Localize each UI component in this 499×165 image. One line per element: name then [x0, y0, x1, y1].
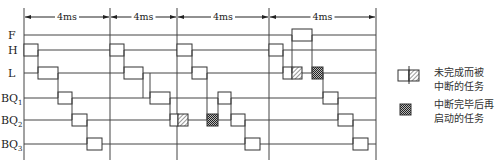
interval-label: 4ms	[213, 11, 233, 22]
task-box-bq1-normal	[150, 92, 170, 104]
task-box-bq3-normal	[353, 138, 368, 150]
row-label-h: H	[8, 44, 18, 57]
task-box-bq2-normal	[231, 114, 245, 126]
legend-swatch-hatch-icon	[409, 70, 419, 81]
task-box-bq3-normal	[245, 138, 260, 150]
task-box-bq2-resumed	[207, 114, 218, 126]
task-box-f-normal	[292, 29, 312, 41]
task-box-bq3-normal	[87, 138, 102, 150]
interval-arrows: 4ms4ms4ms4ms	[25, 11, 375, 22]
task-box-h-normal	[177, 44, 192, 56]
interval-label: 4ms	[313, 11, 333, 22]
task-box-h-normal	[24, 44, 38, 56]
task-box-bq2-normal	[338, 114, 353, 126]
interval-label: 4ms	[57, 11, 77, 22]
legend-text-interrupted: 未完成而被 中断的任务	[434, 66, 499, 94]
task-box-bq1-normal	[58, 92, 72, 104]
task-box-bq2-normal	[170, 114, 178, 126]
task-box-l-normal	[38, 67, 58, 79]
legend-swatch-white	[398, 70, 409, 81]
task-box-bq1-normal	[218, 92, 231, 104]
task-box-l-normal	[192, 67, 207, 79]
task-box-l-interrupted	[292, 67, 302, 79]
task-box-bq2-interrupted	[178, 114, 188, 126]
row-label-f: F	[8, 29, 16, 42]
task-box-bq1-normal	[323, 92, 338, 104]
task-box-l-normal	[283, 67, 292, 79]
interval-label: 4ms	[134, 11, 154, 22]
row-label-bq1: BQ1	[1, 92, 23, 107]
task-box-l-resumed	[312, 67, 323, 79]
legend-swatches	[398, 66, 419, 115]
task-boxes	[24, 29, 368, 150]
legend-text-resumed: 中断完毕后再 启动的任务	[434, 98, 499, 126]
row-label-bq3: BQ3	[1, 138, 23, 153]
row-label-l: L	[8, 67, 16, 80]
task-box-bq2-normal	[72, 114, 87, 126]
task-box-h-normal	[110, 44, 124, 56]
task-box-l-normal	[124, 67, 143, 79]
row-label-bq2: BQ2	[1, 114, 23, 129]
legend-swatch-crosshatch-icon	[400, 104, 411, 115]
task-box-h-normal	[269, 44, 283, 56]
